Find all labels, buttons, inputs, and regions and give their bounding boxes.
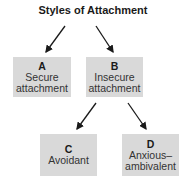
node-label-line2: attachment (86, 83, 143, 94)
arrow-title-to-b (96, 26, 113, 52)
node-label-line1: Secure (13, 72, 71, 83)
node-avoidant: C Avoidant (40, 134, 97, 176)
node-secure-attachment: A Secure attachment (13, 57, 71, 97)
node-label-line1: Avoidant (40, 155, 97, 166)
node-label-line2: attachment (13, 83, 71, 94)
node-insecure-attachment: B Insecure attachment (86, 57, 143, 97)
node-letter: A (13, 61, 71, 72)
node-letter: B (86, 61, 143, 72)
node-label-line1: Insecure (86, 72, 143, 83)
arrow-b-to-d (128, 103, 146, 129)
node-anxious-ambivalent: D Anxious– ambivalent (122, 134, 179, 176)
arrow-b-to-c (77, 103, 96, 129)
node-letter: D (122, 139, 179, 150)
node-label-line2: ambivalent (122, 161, 179, 172)
arrow-title-to-a (46, 26, 65, 52)
node-label-line1: Anxious– (122, 150, 179, 161)
